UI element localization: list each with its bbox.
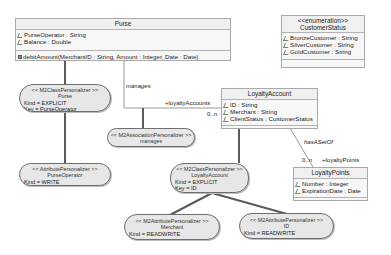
attribute-label: PurseOperator : String bbox=[24, 31, 86, 38]
class-purse[interactable]: Purse PurseOperator : String Balance : D… bbox=[15, 18, 231, 61]
connector-id-personalizer bbox=[212, 193, 287, 214]
attribute-icon bbox=[223, 117, 230, 122]
attribute-row[interactable]: BronzeCustomer : String bbox=[284, 34, 362, 41]
class-attributes: PurseOperator : String Balance : Double bbox=[16, 30, 230, 51]
attribute-label: Merchant : String bbox=[230, 108, 277, 115]
class-attributes: ID : String Merchant : String ClientStat… bbox=[222, 100, 317, 126]
personalizer-purse-class[interactable]: << M2ClassPersonalizer >> Purse Kind = E… bbox=[19, 84, 111, 112]
personalizer-key: Key = ID bbox=[171, 185, 248, 191]
enumeration-name: CustomerStatus bbox=[282, 24, 364, 31]
personalizer-name: manages bbox=[108, 138, 194, 144]
enumeration-stereotype: <<enumeration>> bbox=[282, 17, 364, 24]
association-role-loyaltypoints: +loyaltyPoints bbox=[322, 157, 359, 164]
attribute-row[interactable]: Balance : Double bbox=[18, 38, 228, 45]
operation-label: debitAmount(MerchantID : String, Amount … bbox=[23, 53, 198, 60]
attribute-label: BronzeCustomer : String bbox=[290, 34, 358, 41]
attribute-row[interactable]: ClientStatus : CustomerStatus bbox=[224, 115, 315, 122]
attribute-icon bbox=[295, 189, 302, 194]
attribute-icon bbox=[283, 50, 290, 55]
association-multiplicity-loyaltypoints: 0..n bbox=[302, 157, 312, 164]
operation-row[interactable]: debitAmount(MerchantID : String, Amount … bbox=[18, 53, 228, 60]
personalizer-merchant-attribute[interactable]: << M2AttributePersonalizer >> Merchant K… bbox=[124, 214, 220, 240]
attribute-label: ExpirationDate : Date bbox=[302, 187, 361, 194]
class-attributes: Number : Integer ExpirationDate : Date bbox=[294, 179, 367, 198]
association-name-manages: manages bbox=[126, 83, 151, 90]
class-title: Purse bbox=[16, 19, 230, 30]
personalizer-purseoperator-attribute[interactable]: << AttributePersonalizer >> PurseOperato… bbox=[19, 163, 111, 186]
attribute-icon bbox=[17, 40, 24, 45]
personalizer-manages-association[interactable]: << M2AssociationPersonalizer >> manages bbox=[107, 128, 195, 147]
attribute-row[interactable]: Number : Integer bbox=[296, 180, 365, 187]
attribute-label: SilverCustomer : String bbox=[290, 41, 354, 48]
class-title: <<enumeration>> CustomerStatus bbox=[282, 16, 364, 33]
attribute-row[interactable]: GoldCustomer : String bbox=[284, 48, 362, 55]
attribute-row[interactable]: ExpirationDate : Date bbox=[296, 187, 365, 194]
personalizer-kind: Kind = READWRITE bbox=[240, 230, 333, 236]
personalizer-loyaltyaccount-class[interactable]: << M2ClassPersonalizer >> LoyaltyAccount… bbox=[170, 163, 249, 193]
class-loyaltypoints[interactable]: LoyaltyPoints Number : Integer Expiratio… bbox=[293, 167, 368, 201]
personalizer-key: Key = PurseOperator bbox=[20, 106, 110, 112]
enumeration-customerstatus[interactable]: <<enumeration>> CustomerStatus BronzeCus… bbox=[281, 15, 365, 68]
attribute-label: ID : String bbox=[230, 101, 258, 108]
association-role-loyaltyaccounts: +loyaltyAccounts bbox=[165, 100, 210, 107]
class-operations: debitAmount(MerchantID : String, Amount … bbox=[16, 51, 230, 61]
attribute-row[interactable]: ID : String bbox=[224, 101, 315, 108]
attribute-label: Balance : Double bbox=[24, 38, 71, 45]
attribute-label: GoldCustomer : String bbox=[290, 48, 351, 55]
personalizer-kind: Kind = READWRITE bbox=[125, 231, 219, 237]
association-multiplicity-loyaltyaccounts: 0..n bbox=[207, 111, 217, 118]
attribute-row[interactable]: PurseOperator : String bbox=[18, 31, 228, 38]
class-operations bbox=[222, 126, 317, 134]
attribute-row[interactable]: SilverCustomer : String bbox=[284, 41, 362, 48]
operation-icon bbox=[18, 55, 22, 59]
class-operations bbox=[294, 198, 367, 206]
attribute-row[interactable]: Merchant : String bbox=[224, 108, 315, 115]
class-title: LoyaltyPoints bbox=[294, 168, 367, 179]
association-name-hasasetof: hasASetOf bbox=[304, 139, 333, 146]
class-operations bbox=[282, 60, 364, 68]
personalizer-kind: Kind = WRITE bbox=[20, 179, 110, 185]
personalizer-id-attribute[interactable]: << M2AttributePersonalizer >> ID Kind = … bbox=[239, 213, 334, 239]
class-attributes: BronzeCustomer : String SilverCustomer :… bbox=[282, 33, 364, 60]
connector-merchant-personalizer bbox=[170, 193, 212, 215]
class-loyaltyaccount[interactable]: LoyaltyAccount ID : String Merchant : St… bbox=[221, 88, 318, 129]
class-title: LoyaltyAccount bbox=[222, 89, 317, 100]
attribute-label: Number : Integer bbox=[302, 180, 348, 187]
attribute-label: ClientStatus : CustomerStatus bbox=[230, 115, 313, 122]
